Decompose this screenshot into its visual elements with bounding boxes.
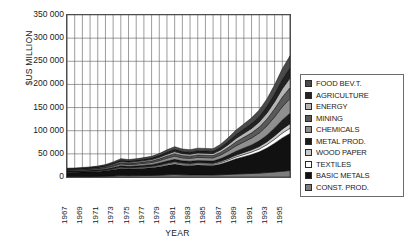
legend-swatch-icon — [305, 161, 312, 168]
plot-area — [66, 14, 291, 178]
y-tick-label: 250 000 — [33, 55, 64, 65]
legend-item: CHEMICALS — [305, 124, 400, 136]
x-tick-label: 1985 — [198, 206, 207, 224]
legend-swatch-icon — [305, 149, 312, 156]
legend-item-label: AGRICULTURE — [316, 90, 369, 102]
y-axis-tick-labels: 350 000300 000250 000200 000150 000100 0… — [20, 10, 64, 176]
x-tick-label: 1981 — [168, 206, 177, 224]
legend-item-label: METAL PROD. — [316, 136, 366, 148]
legend-swatch-icon — [305, 138, 312, 145]
x-tick-label: 1989 — [229, 206, 238, 224]
x-tick-label: 1973 — [106, 206, 115, 224]
x-tick-label: 1971 — [91, 206, 100, 224]
x-axis-tick-labels: 1967196919711973197519771979198119831985… — [66, 178, 289, 224]
chart-figure: $US MILLION 350 000300 000250 000200 000… — [0, 0, 411, 247]
legend-item: TEXTILES — [305, 159, 400, 171]
y-tick-label: 150 000 — [33, 102, 64, 112]
legend-item-label: MINING — [316, 113, 343, 125]
y-tick-label: 200 000 — [33, 78, 64, 88]
legend-item-label: TEXTILES — [316, 159, 351, 171]
legend-item-label: CHEMICALS — [316, 124, 359, 136]
x-tick-label: 1977 — [137, 206, 146, 224]
legend-item-label: WOOD PAPER — [316, 147, 367, 159]
legend-item-label: CONST. PROD. — [316, 182, 369, 194]
y-tick-label: 350 000 — [33, 9, 64, 19]
legend-item: CONST. PROD. — [305, 182, 400, 194]
x-tick-label: 1979 — [152, 206, 161, 224]
legend-item: METAL PROD. — [305, 136, 400, 148]
y-tick-label: 300 000 — [33, 32, 64, 42]
legend-swatch-icon — [305, 80, 312, 87]
x-tick-label: 1995 — [275, 206, 284, 224]
legend-item: WOOD PAPER — [305, 147, 400, 159]
x-tick-label: 1993 — [260, 206, 269, 224]
legend-swatch-icon — [305, 126, 312, 133]
x-tick-label: 1969 — [75, 206, 84, 224]
chart-legend: FOOD BEV.T.AGRICULTUREENERGYMININGCHEMIC… — [300, 74, 404, 197]
legend-swatch-icon — [305, 115, 312, 122]
legend-item-label: ENERGY — [316, 101, 347, 113]
x-axis-title: YEAR — [66, 228, 289, 238]
stacked-area-svg — [67, 15, 290, 177]
legend-item: AGRICULTURE — [305, 90, 400, 102]
legend-swatch-icon — [305, 103, 312, 110]
x-tick-label: 1987 — [214, 206, 223, 224]
legend-item-label: BASIC METALS — [316, 170, 370, 182]
y-tick-label: 0 — [59, 171, 64, 181]
legend-item: MINING — [305, 113, 400, 125]
legend-item-label: FOOD BEV.T. — [316, 78, 361, 90]
legend-swatch-icon — [305, 92, 312, 99]
x-tick-label: 1991 — [245, 206, 254, 224]
legend-item: ENERGY — [305, 101, 400, 113]
legend-item: BASIC METALS — [305, 170, 400, 182]
legend-swatch-icon — [305, 172, 312, 179]
x-tick-label: 1983 — [183, 206, 192, 224]
legend-swatch-icon — [305, 184, 312, 191]
y-tick-label: 100 000 — [33, 125, 64, 135]
x-tick-label: 1967 — [60, 206, 69, 224]
y-tick-label: 50 000 — [38, 148, 64, 158]
legend-item: FOOD BEV.T. — [305, 78, 400, 90]
x-tick-label: 1975 — [122, 206, 131, 224]
